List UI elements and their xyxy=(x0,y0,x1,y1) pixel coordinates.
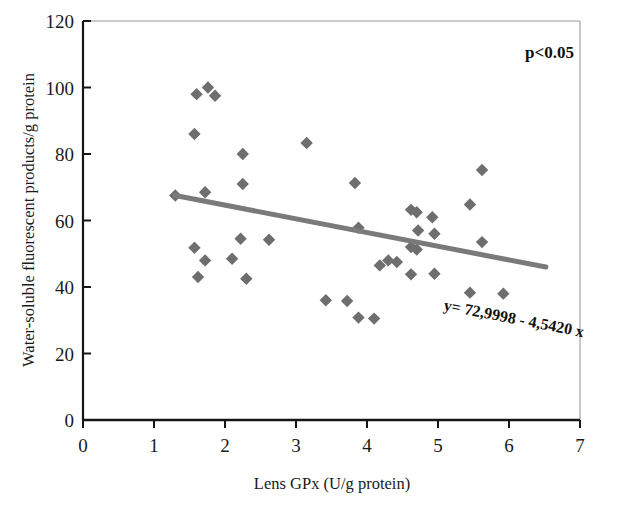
scatter-point xyxy=(341,295,353,307)
scatter-point xyxy=(391,256,403,268)
y-tick-label-120: 120 xyxy=(46,11,75,32)
scatter-point xyxy=(412,224,424,236)
scatter-point xyxy=(199,186,211,198)
scatter-point xyxy=(426,211,438,223)
scatter-point xyxy=(237,178,249,190)
scatter-point xyxy=(202,81,214,93)
y-tick-label-0: 0 xyxy=(65,410,75,431)
scatter-point xyxy=(226,253,238,265)
x-axis-title: Lens GPx (U/g protein) xyxy=(254,474,410,493)
scatter-point xyxy=(497,287,509,299)
scatter-point xyxy=(240,272,252,284)
scatter-point xyxy=(209,90,221,102)
scatter-point xyxy=(192,271,204,283)
y-tick-label-80: 80 xyxy=(55,144,74,165)
x-tick-label-6: 6 xyxy=(504,435,514,456)
x-tick-label-3: 3 xyxy=(291,435,301,456)
y-axis-ticks xyxy=(83,21,91,420)
significance-annotation: p<0.05 xyxy=(525,43,574,62)
x-tick-label-4: 4 xyxy=(362,435,372,456)
y-axis-title: Water-soluble fluorescent products/g pro… xyxy=(19,73,38,367)
scatter-point xyxy=(300,137,312,149)
scatter-point xyxy=(476,164,488,176)
scatter-point xyxy=(237,148,249,160)
scatter-point xyxy=(428,268,440,280)
y-tick-label-100: 100 xyxy=(46,78,75,99)
x-tick-label-1: 1 xyxy=(149,435,159,456)
scatter-point xyxy=(188,242,200,254)
scatter-point xyxy=(349,177,361,189)
y-tick-label-60: 60 xyxy=(55,211,74,232)
x-axis-ticks xyxy=(83,420,580,428)
regression-equation-annotation: y= 72,9998 - 4,5420 x xyxy=(442,296,585,341)
scatter-chart-figure: 0 20 40 60 80 100 120 0 1 2 3 4 5 6 7 Le… xyxy=(0,0,637,509)
scatter-point xyxy=(199,254,211,266)
chart-canvas: 0 20 40 60 80 100 120 0 1 2 3 4 5 6 7 Le… xyxy=(0,0,637,509)
x-tick-label-0: 0 xyxy=(78,435,88,456)
y-tick-label-40: 40 xyxy=(55,277,74,298)
x-tick-label-5: 5 xyxy=(433,435,443,456)
scatter-point xyxy=(234,233,246,245)
scatter-point xyxy=(476,236,488,248)
scatter-point xyxy=(428,228,440,240)
scatter-point xyxy=(464,198,476,210)
x-tick-label-2: 2 xyxy=(220,435,230,456)
scatter-point xyxy=(352,311,364,323)
scatter-point xyxy=(190,88,202,100)
scatter-point xyxy=(188,128,200,140)
scatter-point xyxy=(405,268,417,280)
scatter-point xyxy=(464,286,476,298)
scatter-point xyxy=(368,312,380,324)
x-tick-label-7: 7 xyxy=(575,435,585,456)
scatter-point xyxy=(320,294,332,306)
y-tick-label-20: 20 xyxy=(55,344,74,365)
scatter-point xyxy=(263,234,275,246)
